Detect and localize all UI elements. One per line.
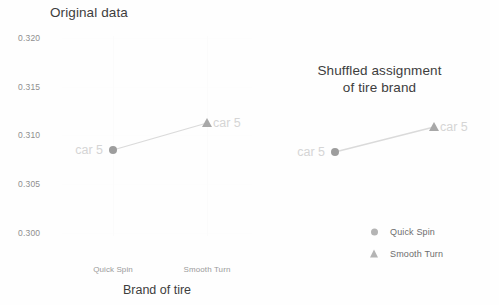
data-point-quick-spin-shuffled[interactable] (331, 148, 339, 156)
triangle-marker-icon (370, 250, 378, 258)
panel-shuffled-assignment: Shuffled assignment of tire brand car 5 … (260, 0, 499, 305)
x-tick-smooth-turn: Smooth Turn (184, 265, 231, 274)
panel-original-data: Original data 0.320 0.315 0.310 0.305 0.… (0, 0, 260, 305)
point-label-quick-spin: car 5 (75, 143, 103, 157)
point-label-smooth-turn: car 5 (213, 116, 241, 130)
series-line-right (260, 0, 499, 305)
legend-label-smooth-turn: Smooth Turn (390, 249, 443, 259)
data-point-smooth-turn-shuffled[interactable] (429, 122, 439, 131)
series-line-left (0, 0, 260, 305)
x-tick-quick-spin: Quick Spin (93, 265, 133, 274)
chart-canvas: Original data 0.320 0.315 0.310 0.305 0.… (0, 0, 499, 305)
point-label-smooth-turn-shuffled: car 5 (440, 120, 468, 134)
circle-marker-icon (371, 229, 378, 236)
legend-label-quick-spin: Quick Spin (390, 227, 435, 237)
data-point-quick-spin[interactable] (109, 146, 117, 154)
data-point-smooth-turn[interactable] (202, 118, 212, 127)
x-axis-title: Brand of tire (62, 283, 252, 297)
point-label-quick-spin-shuffled: car 5 (297, 145, 325, 159)
